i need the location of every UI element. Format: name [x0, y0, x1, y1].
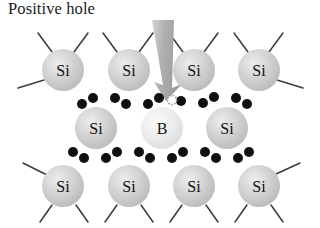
electron-dot — [79, 153, 89, 163]
electron-dot — [101, 153, 111, 163]
electron-dot — [209, 92, 219, 102]
bond-line — [38, 33, 52, 52]
atom-si-top-2: Si — [108, 49, 150, 91]
atom-label: Si — [122, 178, 136, 195]
bond-line — [141, 205, 153, 222]
electron-dot — [244, 147, 254, 157]
electron-dot — [231, 93, 241, 103]
atom-si-top-1: Si — [42, 49, 84, 91]
atom-label: Si — [89, 120, 103, 137]
atom-label: Si — [56, 178, 70, 195]
atom-si-top-4: Si — [238, 49, 280, 91]
bond-line — [139, 33, 153, 52]
positive-hole-marker — [167, 95, 176, 104]
figure-canvas: Positive hole SiSiSiSiSiBSiSiSiSiS — [0, 0, 320, 228]
bond-line — [271, 205, 283, 222]
atom-label: Si — [56, 62, 70, 79]
bond-line — [170, 205, 182, 222]
electron-dot — [200, 147, 210, 157]
electron-dot — [145, 153, 155, 163]
atom-si-bot-1: Si — [42, 165, 84, 207]
atom-si-top-3: Si — [173, 49, 215, 91]
atom-label: Si — [252, 178, 266, 195]
atom-label: Si — [220, 120, 234, 137]
bond-line — [40, 205, 52, 222]
bond-line — [18, 80, 44, 88]
atom-label: Si — [187, 62, 201, 79]
electron-dot — [198, 98, 208, 108]
electron-dot — [167, 153, 177, 163]
atom-si-mid-3: Si — [206, 107, 248, 149]
bond-line — [74, 33, 88, 52]
positive-hole-marker-group — [167, 95, 176, 104]
electron-dot — [154, 93, 164, 103]
bond-line — [269, 33, 283, 52]
bond-line — [235, 205, 247, 222]
bond-line — [105, 205, 117, 222]
bond-line — [103, 33, 117, 52]
electron-dot — [112, 147, 122, 157]
electron-dot — [110, 93, 120, 103]
bond-line — [234, 33, 248, 52]
electron-dot — [121, 99, 131, 109]
bond-line — [76, 205, 88, 222]
atom-si-mid-1: Si — [75, 107, 117, 149]
electron-dot — [77, 99, 87, 109]
bond-line — [204, 33, 218, 52]
atom-label: B — [157, 120, 168, 137]
electron-dot — [68, 147, 78, 157]
electron-dot — [233, 153, 243, 163]
lattice-svg: SiSiSiSiSiBSiSiSiSiSi — [0, 0, 320, 228]
electron-dot — [134, 147, 144, 157]
bond-line — [276, 163, 300, 174]
bond-line — [277, 80, 303, 88]
electron-dot — [242, 99, 252, 109]
electron-dot — [176, 96, 186, 106]
bond-line — [206, 205, 218, 222]
bond-line — [23, 163, 47, 175]
atom-si-bot-3: Si — [173, 165, 215, 207]
electron-dot — [88, 93, 98, 103]
electron-dot — [143, 99, 153, 109]
atom-label: Si — [122, 62, 136, 79]
atom-b-mid-2: B — [141, 107, 183, 149]
electron-dot — [178, 147, 188, 157]
atom-label: Si — [252, 62, 266, 79]
atom-si-bot-4: Si — [238, 165, 280, 207]
electron-dot — [211, 153, 221, 163]
atom-label: Si — [187, 178, 201, 195]
atom-si-bot-2: Si — [108, 165, 150, 207]
